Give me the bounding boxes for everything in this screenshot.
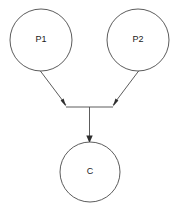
node-p2[interactable]: P2 [107, 9, 169, 71]
arrowhead-p1-icon [61, 99, 66, 107]
node-p1[interactable]: P1 [10, 9, 72, 71]
edge-p2-to-junction [113, 69, 141, 107]
edge-line-p2 [113, 69, 141, 106]
node-c-label: C [87, 166, 94, 176]
edge-line-p1 [39, 69, 67, 106]
node-p1-label: P1 [35, 34, 46, 44]
edge-p1-to-junction [39, 69, 67, 107]
diagram-canvas: P1 P2 C [0, 0, 178, 210]
node-p2-label: P2 [132, 34, 143, 44]
node-c[interactable]: C [60, 142, 120, 202]
causal-diagram-svg: P1 P2 C [0, 0, 178, 210]
arrowhead-p2-icon [113, 99, 118, 107]
edge-junction-to-c [86, 107, 92, 143]
